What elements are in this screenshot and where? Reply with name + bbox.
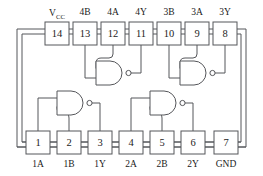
pin-box-6[interactable]: 6 bbox=[181, 131, 205, 154]
bottom-pin-labels: 1A 1B 1Y 2A 2B 2Y GND bbox=[32, 159, 236, 169]
pin-box-8[interactable]: 8 bbox=[213, 22, 237, 45]
pin-number: 11 bbox=[136, 28, 146, 39]
pin-box-2[interactable]: 2 bbox=[57, 131, 81, 154]
pin-label-gnd: GND bbox=[216, 159, 237, 169]
pin-label-vcc: VCC bbox=[49, 8, 65, 19]
pin-number: 8 bbox=[222, 28, 227, 39]
pin-label-3b: 3B bbox=[163, 7, 174, 17]
pin-number: 14 bbox=[52, 28, 63, 39]
pin-number: 5 bbox=[159, 137, 164, 148]
pin-number: 7 bbox=[223, 137, 228, 148]
pin-box-11[interactable]: 11 bbox=[129, 22, 153, 45]
pin-box-7[interactable]: 7 bbox=[214, 131, 238, 154]
pin-label-1b: 1B bbox=[63, 159, 74, 169]
wire-gate2-to-2y bbox=[185, 103, 193, 131]
pin-label-3y: 3Y bbox=[219, 7, 231, 17]
pin-number: 12 bbox=[108, 28, 119, 39]
ic-pinout-diagram: 14 13 12 11 10 9 bbox=[0, 0, 263, 176]
gate-1-body-nand bbox=[57, 91, 83, 115]
gate-4-invert-bubble bbox=[126, 70, 131, 75]
pin-label-4b: 4B bbox=[79, 7, 90, 17]
top-pin-row: 14 13 12 11 10 9 bbox=[45, 22, 237, 45]
gate-3 bbox=[180, 61, 215, 85]
wire-2a-to-gate2 bbox=[131, 98, 150, 131]
pin-number: 6 bbox=[190, 137, 195, 148]
pin-number: 9 bbox=[194, 28, 199, 39]
pin-label-1a: 1A bbox=[32, 159, 44, 169]
wire-gate3-to-3y bbox=[215, 45, 225, 73]
pin-box-12[interactable]: 12 bbox=[101, 22, 125, 45]
gate-2-body-nand bbox=[150, 91, 176, 115]
wire-1a-to-gate1 bbox=[38, 98, 57, 131]
pin-label-2y: 2Y bbox=[187, 159, 199, 169]
gate-2 bbox=[150, 91, 185, 115]
pin-box-1[interactable]: 1 bbox=[26, 131, 50, 154]
gate-4-body-nand bbox=[96, 61, 122, 85]
top-pin-labels: VCC 4B 4A 4Y 3B 3A 3Y bbox=[49, 7, 231, 19]
pin-number: 13 bbox=[80, 28, 91, 39]
pin-box-10[interactable]: 10 bbox=[157, 22, 181, 45]
pin-label-2b: 2B bbox=[156, 159, 167, 169]
pin-label-1y: 1Y bbox=[94, 159, 106, 169]
wire-gate4-to-4y bbox=[131, 45, 141, 73]
pin-label-4y: 4Y bbox=[135, 7, 147, 17]
pin-box-4[interactable]: 4 bbox=[119, 131, 143, 154]
gate-3-body-nand bbox=[180, 61, 206, 85]
pin-number: 10 bbox=[164, 28, 175, 39]
pin-number: 4 bbox=[128, 137, 134, 148]
gate-2-invert-bubble bbox=[180, 100, 185, 105]
pin-number: 1 bbox=[35, 137, 40, 148]
pin-label-2a: 2A bbox=[125, 159, 137, 169]
pin-box-14[interactable]: 14 bbox=[45, 22, 69, 45]
wire-gate1-to-1y bbox=[92, 103, 100, 131]
gate-3-invert-bubble bbox=[210, 70, 215, 75]
pin-label-4a: 4A bbox=[107, 7, 119, 17]
gate-1-invert-bubble bbox=[87, 100, 92, 105]
pin-box-13[interactable]: 13 bbox=[73, 22, 97, 45]
ic-diagram-canvas: 14 13 12 11 10 9 bbox=[0, 0, 263, 176]
pin-number: 3 bbox=[97, 137, 102, 148]
pin-number: 2 bbox=[66, 137, 71, 148]
pin-box-9[interactable]: 9 bbox=[185, 22, 209, 45]
pin-box-3[interactable]: 3 bbox=[88, 131, 112, 154]
gate-4 bbox=[96, 61, 131, 85]
wire-4b-to-gate4 bbox=[85, 45, 96, 78]
pin-box-5[interactable]: 5 bbox=[150, 131, 174, 154]
pin-label-3a: 3A bbox=[191, 7, 203, 17]
gate-1 bbox=[57, 91, 92, 115]
wire-3b-to-gate3 bbox=[169, 45, 180, 78]
